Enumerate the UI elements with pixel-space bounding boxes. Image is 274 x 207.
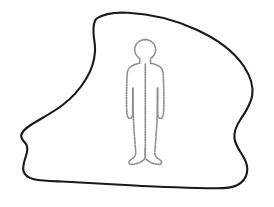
illustration-svg [0, 0, 274, 207]
drawing-canvas [0, 0, 274, 207]
